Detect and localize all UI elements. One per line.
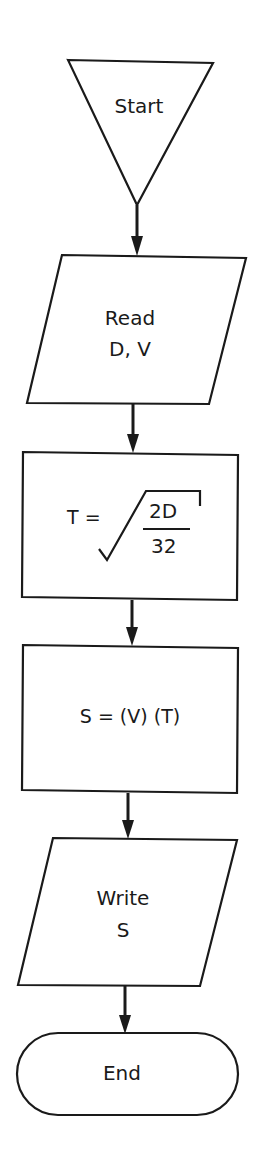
- compute-s-node-label: S = (V) (T): [40, 705, 220, 728]
- read-node-label-line1: Read: [90, 306, 170, 330]
- start-node-shape: [68, 60, 213, 205]
- flowchart-canvas: [0, 0, 263, 1150]
- arrowhead-icon: [127, 434, 139, 453]
- read-node-label-line2: D, V: [90, 337, 170, 361]
- write-node-label-line1: Write: [83, 886, 163, 910]
- arrowhead-icon: [122, 820, 134, 839]
- end-node-label: End: [82, 1061, 162, 1085]
- arrowhead-icon: [119, 1015, 131, 1034]
- write-node-shape: [18, 838, 237, 986]
- compute-t-denominator: 32: [151, 534, 176, 558]
- compute-t-node-shape: [22, 452, 238, 600]
- compute-t-lhs: T =: [67, 506, 101, 528]
- arrowhead-icon: [126, 627, 138, 646]
- arrowhead-icon: [131, 236, 143, 256]
- compute-t-numerator: 2D: [149, 499, 177, 523]
- write-node-label-line2: S: [83, 918, 163, 942]
- start-node-label: Start: [100, 94, 178, 118]
